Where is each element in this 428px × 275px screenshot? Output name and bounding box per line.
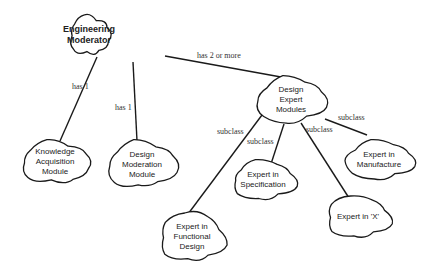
node-label: Design Expert Modules <box>253 75 329 125</box>
edge-label: subclass <box>217 127 244 136</box>
edge-moderator-kam <box>60 57 97 141</box>
edge-label: has 1 <box>72 82 89 91</box>
node-manufacture: Expert in Manufacture <box>341 139 417 181</box>
edge-label: subclass <box>338 113 365 122</box>
edge-label: subclass <box>247 137 274 146</box>
edge-label: has 2 or more <box>197 51 241 60</box>
edge-label: has 1 <box>115 103 132 112</box>
node-label: Knowledge Acquisition Module <box>18 139 92 185</box>
node-label: Expert in Manufacture <box>341 139 417 181</box>
node-x: Expert in 'X' <box>322 195 394 239</box>
node-label: Expert in 'X' <box>322 195 394 239</box>
edge-moderator-dmm <box>133 62 137 141</box>
diagram-canvas: has 1has 1has 2 or moresubclasssubclasss… <box>0 0 428 275</box>
node-label: Design Moderation Module <box>104 139 180 191</box>
node-label: Expert in Functional Design <box>155 211 229 263</box>
node-dmm: Design Moderation Module <box>104 139 180 191</box>
node-label: Engineering Moderator <box>68 14 110 56</box>
node-functional: Expert in Functional Design <box>155 211 229 263</box>
node-moderator: Engineering Moderator <box>68 14 110 56</box>
node-kam: Knowledge Acquisition Module <box>18 139 92 185</box>
edge-label: subclass <box>306 125 333 134</box>
node-label: Expert in Specification <box>227 159 299 201</box>
node-specification: Expert in Specification <box>227 159 299 201</box>
node-dem: Design Expert Modules <box>253 75 329 125</box>
